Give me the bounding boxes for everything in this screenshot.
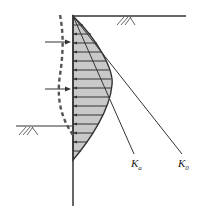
ground-hatch-icon-right	[117, 17, 135, 25]
earth-pressure-diagram: Ka K0	[0, 0, 199, 220]
ground-hatch-icon-left	[19, 127, 38, 135]
wall-deflection-curve	[59, 15, 73, 135]
ka-label: Ka	[130, 157, 142, 172]
support-arrow-upper	[45, 40, 71, 45]
k0-label: K0	[177, 157, 189, 172]
